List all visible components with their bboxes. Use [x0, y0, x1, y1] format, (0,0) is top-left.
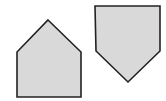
- inverted-pentagon-shape: [95, 6, 160, 82]
- diagram-canvas: [0, 0, 166, 101]
- shapes-layer: [0, 0, 166, 101]
- upright-pentagon-shape: [17, 20, 81, 97]
